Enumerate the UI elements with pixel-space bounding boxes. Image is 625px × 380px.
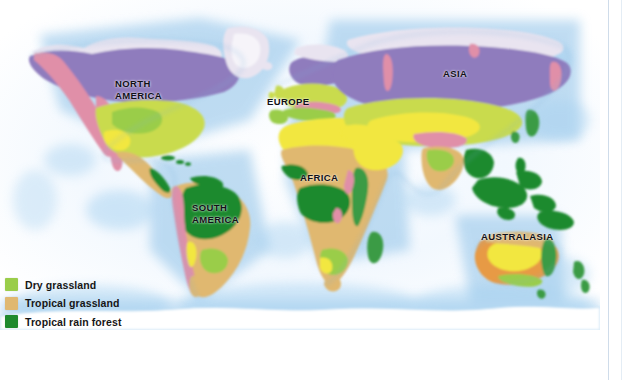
legend-swatch-tropical-rain-forest (5, 315, 18, 328)
page-rule-secondary (621, 0, 622, 380)
legend-item-dry-grassland: Dry grassland (5, 278, 122, 291)
legend-label-tropical-rain-forest: Tropical rain forest (25, 316, 122, 328)
map-legend: Dry grassland Tropical grassland Tropica… (5, 278, 122, 328)
legend-item-tropical-rain-forest: Tropical rain forest (5, 315, 122, 328)
legend-swatch-tropical-grassland (5, 297, 18, 310)
legend-label-dry-grassland: Dry grassland (25, 279, 96, 291)
figure-page: NORTH AMERICA SOUTH AMERICA EUROPE AFRIC… (0, 0, 625, 380)
page-rule-primary (608, 0, 609, 380)
legend-item-tropical-grassland: Tropical grassland (5, 297, 122, 310)
legend-label-tropical-grassland: Tropical grassland (25, 297, 120, 309)
legend-swatch-dry-grassland (5, 278, 18, 291)
